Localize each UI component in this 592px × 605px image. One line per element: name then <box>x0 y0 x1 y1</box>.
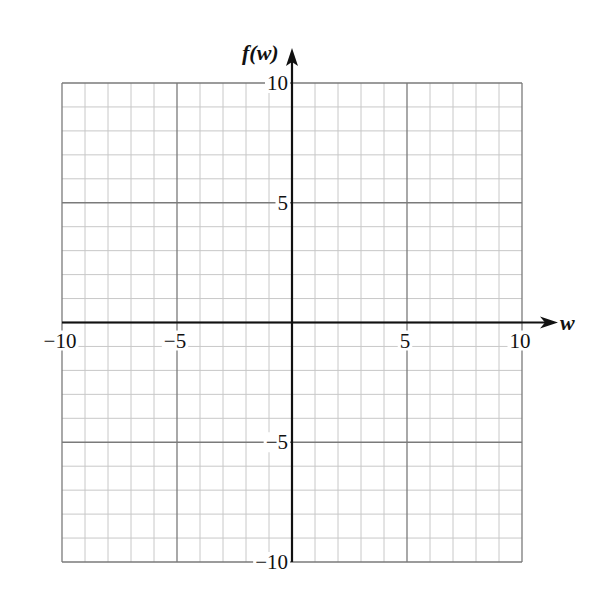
y-tick-label: 5 <box>278 191 289 215</box>
coordinate-plane: −10−5510 105−5−10 w f(w) <box>0 0 592 605</box>
x-tick-label: −5 <box>164 329 186 353</box>
x-tick-label: 5 <box>400 329 411 353</box>
x-tick-label: 10 <box>510 329 531 353</box>
y-axis-label: f(w) <box>242 40 279 65</box>
y-tick-label: −10 <box>255 550 288 574</box>
axes <box>62 48 558 562</box>
y-tick-label: −5 <box>266 430 288 454</box>
x-axis-label: w <box>560 310 575 335</box>
y-tick-label: 10 <box>267 71 288 95</box>
x-tick-label: −10 <box>44 329 77 353</box>
x-tick-labels: −10−5510 <box>42 329 533 353</box>
